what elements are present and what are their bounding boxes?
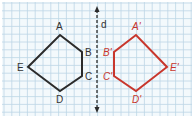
vertex-label-original-e: E — [17, 62, 24, 73]
vertex-label-original-c: C — [85, 71, 92, 82]
vertex-label-original-d: D — [56, 94, 63, 105]
grid-background — [2, 2, 192, 116]
vertex-label-image-dprime: D' — [132, 94, 142, 105]
axis-label: d — [101, 19, 107, 30]
vertex-label-original-a: A — [56, 21, 63, 32]
vertex-label-original-b: B — [85, 47, 92, 58]
symmetry-diagram: d ABCDE A'B'C'D'E' — [0, 0, 194, 121]
vertex-label-image-cprime: C' — [103, 71, 113, 82]
vertex-label-image-eprime: E' — [170, 62, 180, 73]
vertex-label-image-aprime: A' — [131, 21, 142, 32]
vertex-label-image-bprime: B' — [103, 47, 113, 58]
